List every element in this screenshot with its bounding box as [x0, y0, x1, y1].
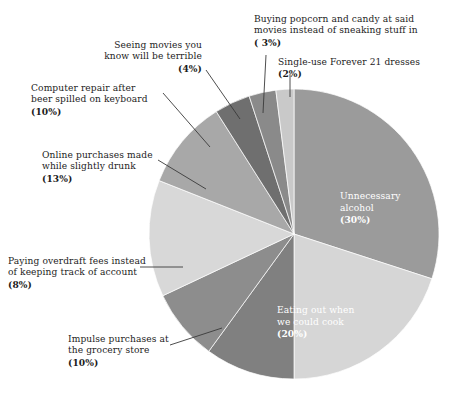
inner-label-unnecessary-alcohol: Unnecessary alcohol (30%): [340, 191, 401, 226]
callout-computer-repair-percent: (10%): [31, 106, 216, 117]
inner-label-unnecessary-alcohol-percent: (30%): [340, 214, 401, 226]
callout-impulse-purchases: Impulse purchases at the grocery store (…: [68, 334, 248, 368]
callout-seeing-movies-line-1: Seeing movies you: [20, 40, 202, 51]
inner-label-eating-out-percent: (20%): [277, 328, 354, 340]
callout-impulse-purchases-percent: (10%): [68, 357, 248, 368]
callout-seeing-movies-line-2: know will be terrible: [20, 51, 202, 62]
callout-online-purchases: Online purchases made while slightly dru…: [42, 150, 224, 184]
callout-online-purchases-line-1: Online purchases made: [42, 150, 224, 161]
pie-chart: Buying popcorn and candy at said movies …: [0, 0, 459, 402]
callout-online-purchases-line-2: while slightly drunk: [42, 161, 224, 172]
callout-online-purchases-percent: (13%): [42, 173, 224, 184]
inner-label-unnecessary-alcohol-line-2: alcohol: [340, 203, 401, 215]
callout-computer-repair-line-1: Computer repair after: [31, 83, 216, 94]
callout-impulse-purchases-line-2: the grocery store: [68, 345, 248, 356]
callout-forever-21-line-1: Single-use Forever 21 dresses: [278, 57, 458, 68]
callout-computer-repair: Computer repair after beer spilled on ke…: [31, 83, 216, 117]
callout-buying-popcorn-line-2: movies instead of sneaking stuff in: [254, 25, 450, 36]
callout-buying-popcorn-line-1: Buying popcorn and candy at said: [254, 14, 450, 25]
callout-impulse-purchases-line-1: Impulse purchases at: [68, 334, 248, 345]
callout-overdraft-fees-line-1: Paying overdraft fees instead: [8, 256, 198, 267]
callout-forever-21: Single-use Forever 21 dresses (2%): [278, 57, 458, 80]
callout-seeing-movies-percent: (4%): [20, 63, 202, 74]
callout-overdraft-fees-percent: (8%): [8, 279, 198, 290]
inner-label-eating-out: Eating out when we could cook (20%): [277, 305, 354, 340]
inner-label-eating-out-line-1: Eating out when: [277, 305, 354, 317]
callout-buying-popcorn-percent: ( 3%): [254, 37, 450, 48]
inner-label-eating-out-line-2: we could cook: [277, 317, 354, 329]
callout-overdraft-fees: Paying overdraft fees instead of keeping…: [8, 256, 198, 290]
inner-label-unnecessary-alcohol-line-1: Unnecessary: [340, 191, 401, 203]
callout-seeing-movies: Seeing movies you know will be terrible …: [20, 40, 202, 74]
callout-computer-repair-line-2: beer spilled on keyboard: [31, 94, 216, 105]
callout-overdraft-fees-line-2: of keeping track of account: [8, 267, 198, 278]
callout-buying-popcorn: Buying popcorn and candy at said movies …: [254, 14, 450, 48]
callout-forever-21-percent: (2%): [278, 68, 458, 79]
